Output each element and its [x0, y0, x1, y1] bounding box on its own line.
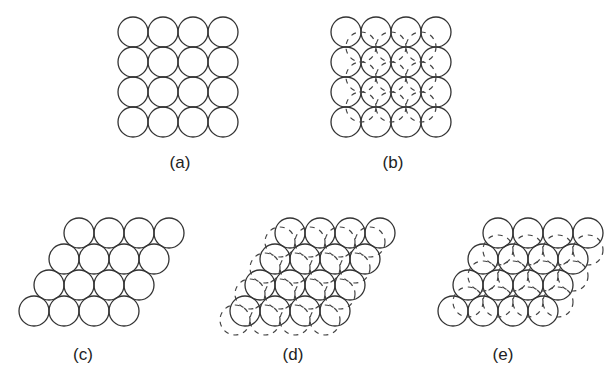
panel-c-sphere	[79, 296, 109, 326]
panel-e-sphere	[513, 218, 543, 248]
packing-diagram	[0, 0, 611, 389]
panel-e-sphere	[543, 218, 573, 248]
panel-b-sphere	[421, 107, 451, 137]
panel-d-sphere	[260, 244, 290, 274]
panel-c-sphere	[19, 296, 49, 326]
panel-a-sphere	[178, 47, 208, 77]
panel-d-upper-sphere	[325, 279, 355, 309]
panel-c-sphere	[64, 270, 94, 300]
panel-d-sphere	[335, 218, 365, 248]
panel-c-sphere	[94, 218, 124, 248]
panel-b-upper-sphere	[346, 32, 376, 62]
panel-b-upper-sphere	[406, 62, 436, 92]
panel-d-sphere	[290, 296, 320, 326]
panel-b-sphere	[361, 77, 391, 107]
panel-e-sphere	[453, 270, 483, 300]
panel-a-sphere	[208, 77, 238, 107]
panel-d-upper-sphere	[310, 253, 340, 283]
panel-d-upper-sphere	[280, 305, 310, 335]
panel-d-upper-sphere	[265, 227, 295, 257]
panel-d-sphere	[365, 218, 395, 248]
panel-a-sphere	[118, 47, 148, 77]
panel-b-upper-sphere	[376, 62, 406, 92]
panel-d-sphere	[305, 270, 335, 300]
panel-d-upper-sphere	[295, 227, 325, 257]
panel-label-e: (e)	[493, 345, 514, 365]
panel-d-sphere	[275, 270, 305, 300]
panel-c-sphere	[64, 218, 94, 248]
panel-a-sphere	[178, 107, 208, 137]
panel-e-sphere	[483, 218, 513, 248]
panel-c-sphere	[139, 244, 169, 274]
panel-d-sphere	[275, 218, 305, 248]
panel-b-sphere	[391, 107, 421, 137]
panel-b-sphere	[331, 47, 361, 77]
panel-d-sphere	[335, 270, 365, 300]
panel-b-sphere	[421, 77, 451, 107]
panel-d-upper-sphere	[280, 253, 310, 283]
panel-d-sphere	[290, 244, 320, 274]
panel-a-sphere	[148, 47, 178, 77]
panel-b-sphere	[421, 47, 451, 77]
panel-d-upper-sphere	[325, 227, 355, 257]
panel-c-sphere	[154, 218, 184, 248]
panel-label-b: (b)	[383, 153, 404, 173]
panel-d-upper-sphere	[355, 227, 385, 257]
panel-a-sphere	[148, 77, 178, 107]
panel-d-upper-sphere	[265, 279, 295, 309]
panel-label-c: (c)	[73, 345, 93, 365]
panel-label-d: (d)	[283, 345, 304, 365]
panel-c-sphere	[94, 270, 124, 300]
panel-b-sphere	[331, 107, 361, 137]
panel-d-sphere	[350, 244, 380, 274]
panel-e-sphere	[468, 244, 498, 274]
panel-b-sphere	[361, 47, 391, 77]
panel-b-sphere	[391, 17, 421, 47]
panel-d-sphere	[305, 218, 335, 248]
panel-d-upper-sphere	[250, 253, 280, 283]
panel-a-sphere	[148, 107, 178, 137]
panel-d-upper-sphere	[295, 279, 325, 309]
panel-a-sphere	[118, 77, 148, 107]
panel-b-sphere	[361, 17, 391, 47]
panel-c-sphere	[34, 270, 64, 300]
panel-b-sphere	[331, 77, 361, 107]
panel-a-sphere	[118, 107, 148, 137]
panel-a-sphere	[148, 17, 178, 47]
panel-a-sphere	[208, 107, 238, 137]
panel-d-upper-sphere	[250, 305, 280, 335]
panel-b-sphere	[361, 107, 391, 137]
panel-b-sphere	[391, 47, 421, 77]
panel-d-sphere	[320, 244, 350, 274]
panel-c-sphere	[49, 244, 79, 274]
panel-c-sphere	[109, 244, 139, 274]
panel-label-a: (a)	[170, 153, 191, 173]
panel-b-upper-sphere	[346, 92, 376, 122]
panel-b-upper-sphere	[346, 62, 376, 92]
panel-c-sphere	[79, 244, 109, 274]
panel-d-upper-sphere	[220, 305, 250, 335]
panel-b-upper-sphere	[406, 32, 436, 62]
panel-a-sphere	[208, 17, 238, 47]
panel-d-sphere	[245, 270, 275, 300]
panel-c-sphere	[49, 296, 79, 326]
panel-c-sphere	[124, 218, 154, 248]
panel-d-sphere	[230, 296, 260, 326]
panel-a-sphere	[208, 47, 238, 77]
panel-a-sphere	[178, 77, 208, 107]
panel-b-sphere	[331, 17, 361, 47]
panel-d-sphere	[320, 296, 350, 326]
panel-b-upper-sphere	[376, 92, 406, 122]
panel-d-sphere	[260, 296, 290, 326]
panel-c-sphere	[124, 270, 154, 300]
panel-b-sphere	[391, 77, 421, 107]
panel-b-upper-sphere	[376, 32, 406, 62]
panel-a-sphere	[118, 17, 148, 47]
panel-b-upper-sphere	[406, 92, 436, 122]
panel-a-sphere	[178, 17, 208, 47]
panel-e-sphere	[573, 218, 603, 248]
panel-b-sphere	[421, 17, 451, 47]
panel-d-upper-sphere	[235, 279, 265, 309]
panel-c-sphere	[109, 296, 139, 326]
panel-d-upper-sphere	[310, 305, 340, 335]
